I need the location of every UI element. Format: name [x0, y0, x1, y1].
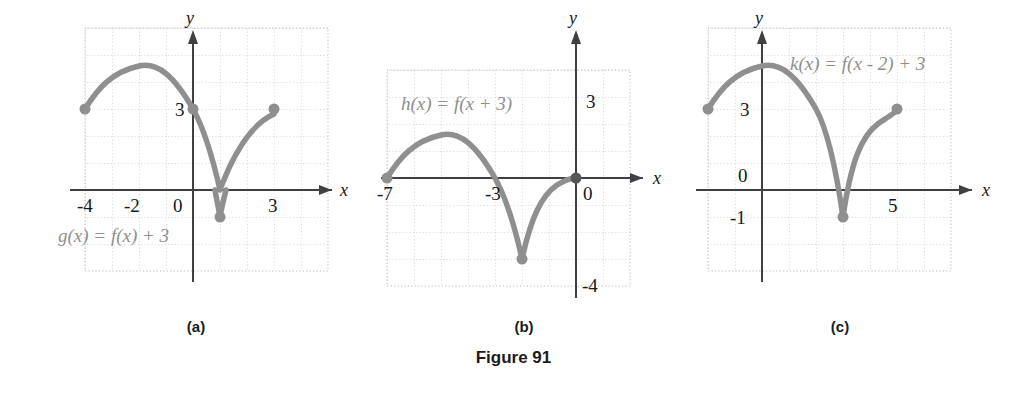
x-tick-b-2: 0 — [583, 183, 593, 204]
y-tick-c-0: 3 — [740, 99, 750, 120]
y-tick-b-0: 3 — [586, 91, 596, 112]
x-tick-c-0: 0 — [738, 165, 748, 186]
equation-label-b: h(x) = f(x + 3) — [401, 93, 512, 115]
x-tick-b-0: -7 — [377, 183, 393, 204]
endpoint-b-right — [571, 173, 582, 184]
graph-a: x y -4 -2 0 3 3 g(x) = f(x) + 3 — [40, 10, 360, 310]
x-tick-a-0: -4 — [77, 195, 93, 216]
y-axis-label-c: y — [753, 10, 763, 28]
y-tick-a-0: 3 — [175, 99, 185, 120]
figure-title: Figure 91 — [0, 348, 1027, 368]
panel-a: x y -4 -2 0 3 3 g(x) = f(x) + 3 — [40, 10, 360, 310]
figure-container: x y -4 -2 0 3 3 g(x) = f(x) + 3 — [0, 0, 1027, 410]
equation-label-c: k(x) = f(x - 2) + 3 — [790, 53, 925, 75]
endpoint-c-left — [703, 104, 714, 115]
caption-b: (b) — [484, 318, 564, 335]
equation-label-a: g(x) = f(x) + 3 — [58, 225, 169, 247]
endpoint-b-left — [382, 173, 393, 184]
caption-a: (a) — [156, 318, 236, 335]
y-intercept-a — [188, 104, 199, 115]
y-axis-label-a: y — [184, 10, 194, 28]
panel-b: x y -7 -3 0 3 -4 h(x) = f(x + 3) — [375, 10, 675, 310]
x-tick-b-1: -3 — [485, 183, 501, 204]
y-tick-b-1: -4 — [582, 275, 598, 296]
vertex-c — [838, 212, 849, 223]
x-axis-arrow-c — [959, 185, 972, 195]
x-axis-arrow-b — [630, 173, 643, 183]
graph-b: x y -7 -3 0 3 -4 h(x) = f(x + 3) — [375, 10, 675, 310]
endpoint-a-left — [80, 104, 91, 115]
x-axis-label-a: x — [339, 180, 348, 200]
x-tick-a-1: -2 — [124, 195, 140, 216]
vertex-b — [517, 254, 528, 265]
graph-c: x y 0 5 3 -1 k(x) = f(x - 2) + 3 — [690, 10, 1010, 310]
endpoint-c-right — [892, 104, 903, 115]
x-axis-label-b: x — [652, 168, 661, 188]
y-axis-arrow-b — [571, 30, 581, 44]
x-tick-c-1: 5 — [888, 195, 898, 216]
panel-c: x y 0 5 3 -1 k(x) = f(x - 2) + 3 — [690, 10, 1010, 310]
y-axis-label-b: y — [567, 10, 577, 28]
endpoint-a-right — [269, 104, 280, 115]
x-tick-a-2: 0 — [173, 195, 183, 216]
y-tick-c-1: -1 — [730, 207, 746, 228]
caption-c: (c) — [800, 318, 880, 335]
x-tick-a-3: 3 — [268, 195, 278, 216]
x-axis-label-c: x — [981, 180, 990, 200]
